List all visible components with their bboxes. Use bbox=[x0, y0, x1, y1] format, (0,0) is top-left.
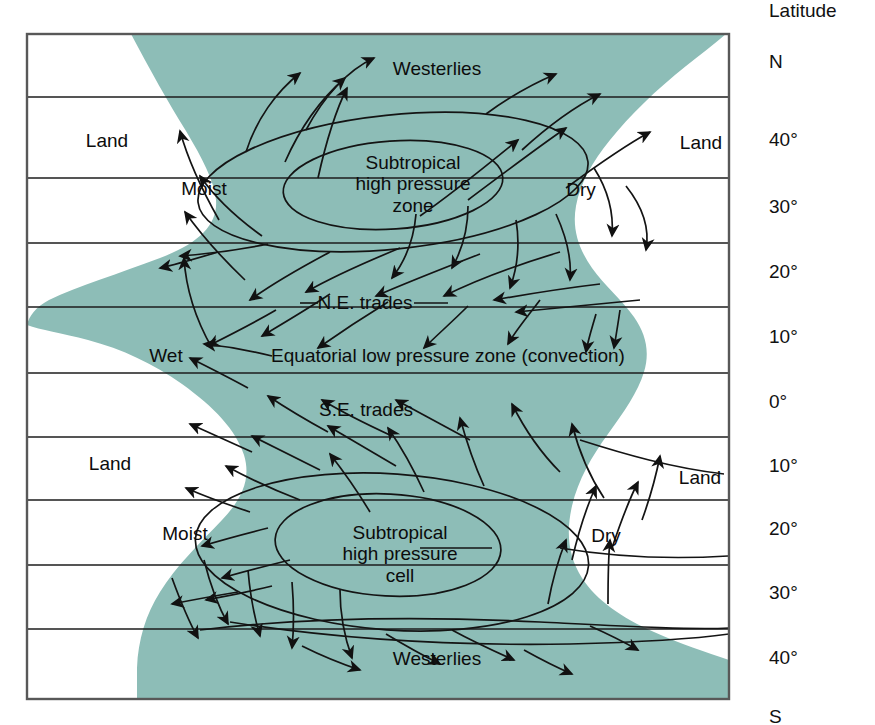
label-westerlies-south: Westerlies bbox=[393, 648, 481, 669]
label-se-trades: S.E. trades bbox=[319, 399, 413, 420]
label-subtropical-high-north: Subtropical high pressure zone bbox=[355, 152, 470, 216]
label-land-south-east: Land bbox=[679, 467, 721, 488]
lat-tick-20s: 20° bbox=[769, 518, 798, 540]
label-moist-south: Moist bbox=[162, 523, 207, 544]
lat-tick-30s: 30° bbox=[769, 582, 798, 604]
label-moist-north: Moist bbox=[181, 178, 226, 199]
label-land-north-west: Land bbox=[86, 130, 128, 151]
label-dry-south: Dry bbox=[591, 525, 621, 546]
label-wet: Wet bbox=[149, 345, 182, 366]
label-dry-north: Dry bbox=[566, 179, 596, 200]
lat-tick-10s: 10° bbox=[769, 455, 798, 477]
label-land-south-west: Land bbox=[89, 453, 131, 474]
latitude-axis-title: Latitude bbox=[769, 0, 837, 22]
sth-north-line-1: Subtropical bbox=[355, 152, 470, 173]
label-ne-trades: N.E. trades bbox=[317, 292, 412, 313]
lat-tick-10n: 10° bbox=[769, 326, 798, 348]
lat-tick-s: S bbox=[769, 706, 782, 725]
lat-tick-20n: 20° bbox=[769, 261, 798, 283]
label-subtropical-high-south: Subtropical high pressure cell bbox=[342, 522, 457, 586]
label-westerlies-north: Westerlies bbox=[393, 58, 481, 79]
label-land-north-east: Land bbox=[680, 132, 722, 153]
sth-north-line-2: high pressure bbox=[355, 173, 470, 194]
lat-tick-0: 0° bbox=[769, 391, 787, 413]
figure-root: Latitude N 40° 30° 20° 10° 0° 10° 20° 30… bbox=[0, 0, 875, 725]
sth-south-line-2: high pressure bbox=[342, 543, 457, 564]
lat-tick-n: N bbox=[769, 51, 783, 73]
lat-tick-40n: 40° bbox=[769, 129, 798, 151]
map-body bbox=[27, 34, 729, 699]
sth-south-line-1: Subtropical bbox=[342, 522, 457, 543]
label-equatorial-low: Equatorial low pressure zone (convection… bbox=[271, 345, 625, 366]
lat-tick-30n: 30° bbox=[769, 196, 798, 218]
sth-south-line-3: cell bbox=[342, 565, 457, 586]
lat-tick-40s: 40° bbox=[769, 647, 798, 669]
sth-north-line-3: zone bbox=[355, 195, 470, 216]
